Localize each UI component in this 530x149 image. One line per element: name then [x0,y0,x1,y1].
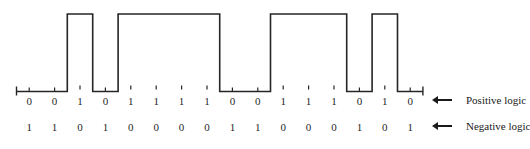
bit-digit: 1 [327,94,341,108]
bit-digit: 0 [200,120,214,134]
bit-digit: 0 [22,94,36,108]
bit-digit: 1 [175,94,189,108]
bit-digit: 1 [276,94,290,108]
bit-digit: 0 [225,94,239,108]
bit-digit: 0 [124,120,138,134]
bit-digit: 0 [48,94,62,108]
bit-digit: 0 [403,94,417,108]
bit-digit: 0 [276,120,290,134]
bit-digit: 0 [73,120,87,134]
bit-digit: 1 [378,94,392,108]
bit-digit: 1 [48,120,62,134]
bit-digit: 0 [302,120,316,134]
bit-digit: 1 [251,120,265,134]
signal-waveform-path [17,14,423,92]
legend-item-negative-logic: Negative logic [432,119,530,133]
bit-digit: 1 [225,120,239,134]
bit-digit: 1 [149,94,163,108]
bit-digit: 1 [302,94,316,108]
legend-label-negative-logic: Negative logic [466,120,530,132]
bit-digit: 1 [403,120,417,134]
bit-digit: 1 [98,120,112,134]
bit-digit: 0 [352,94,366,108]
bit-digit: 1 [73,94,87,108]
bit-digit: 0 [327,120,341,134]
bit-digit: 0 [149,120,163,134]
legend-label-positive-logic: Positive logic [466,94,526,106]
bit-digit: 1 [124,94,138,108]
bit-digit: 0 [378,120,392,134]
left-arrow-icon [432,95,458,105]
left-arrow-icon [432,121,458,131]
legend-item-positive-logic: Positive logic [432,93,526,107]
bit-digit: 1 [200,94,214,108]
bit-digit: 1 [352,120,366,134]
bit-digit: 1 [22,120,36,134]
bit-digit: 0 [251,94,265,108]
bit-digit: 0 [98,94,112,108]
bit-digit: 0 [175,120,189,134]
